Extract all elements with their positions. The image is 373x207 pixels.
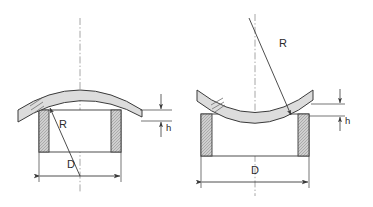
h-label-convex: h	[166, 122, 171, 133]
convex-disc-figure: R h D	[18, 18, 172, 193]
h-label-concave: h	[345, 115, 350, 126]
radius-label-concave: R	[279, 37, 287, 49]
radius-label-convex: R	[59, 118, 67, 130]
technical-drawing: R h D	[0, 0, 373, 207]
base-wall-right-convex	[111, 110, 121, 152]
d-label-concave: D	[251, 164, 259, 176]
diagram-canvas: R h D	[0, 0, 373, 207]
d-label-convex: D	[67, 158, 75, 170]
base-wall-left-concave	[201, 114, 212, 156]
concave-disc-figure: R h D	[197, 14, 350, 196]
base-wall-right-concave	[298, 114, 309, 156]
base-wall-left-convex	[39, 110, 49, 152]
base-cylinder-convex	[39, 110, 121, 152]
